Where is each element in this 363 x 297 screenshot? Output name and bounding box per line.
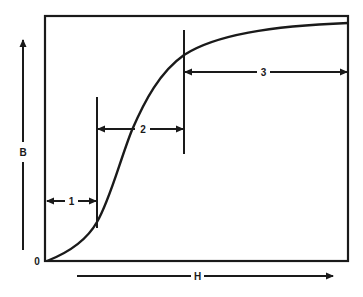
plot-frame — [45, 16, 348, 261]
h-axis-label: H — [194, 271, 201, 282]
origin-label: 0 — [34, 256, 40, 267]
region-3-span: 3 — [185, 67, 347, 78]
b-axis-label: B — [19, 147, 26, 158]
region-2-span: 2 — [98, 124, 183, 135]
h-axis-arrow: H — [77, 271, 333, 282]
region-2-label: 2 — [140, 124, 146, 135]
region-3-label: 3 — [261, 67, 267, 78]
b-axis-arrow: B — [19, 40, 26, 250]
region-1-span: 1 — [47, 196, 96, 207]
magnetization-curve — [47, 23, 348, 261]
bh-curve-diagram: B H 0 1 2 3 — [0, 0, 363, 297]
region-1-label: 1 — [69, 196, 75, 207]
